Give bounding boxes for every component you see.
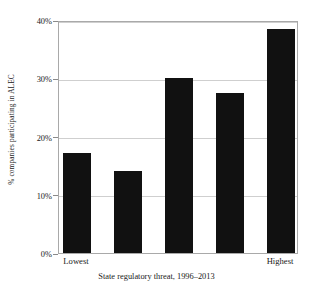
y-tick-label: 10% xyxy=(37,191,52,200)
bar-chart: % companies participating in ALEC 0%10%2… xyxy=(0,0,313,294)
y-axis-title: % companies participating in ALEC xyxy=(0,0,22,258)
y-tick-label: 0% xyxy=(41,250,52,259)
gridline xyxy=(59,22,297,23)
y-tick-label: 40% xyxy=(37,17,52,26)
y-axis-title-text: % companies participating in ALEC xyxy=(7,74,16,185)
x-tick-label: Highest xyxy=(267,256,294,266)
y-tick-label: 20% xyxy=(37,133,52,142)
bar xyxy=(267,29,295,253)
bar xyxy=(63,153,91,253)
y-tick-label: 30% xyxy=(37,75,52,84)
bar xyxy=(165,78,193,253)
bar xyxy=(114,171,142,253)
bar xyxy=(216,93,244,253)
x-tick-label: Lowest xyxy=(63,256,88,266)
x-axis-title: State regulatory threat, 1996–2013 xyxy=(0,272,313,281)
plot-area xyxy=(58,21,298,254)
